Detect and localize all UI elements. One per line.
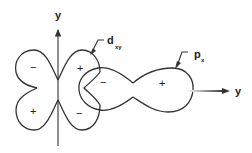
px-label-subscript: x: [201, 57, 205, 63]
vertical-axis-label: y: [55, 9, 62, 21]
px-lobe-left: [79, 68, 133, 111]
dxy-sign-lower-left: +: [30, 105, 36, 117]
horizontal-axis: y: [186, 85, 242, 97]
px-sign-left: −: [100, 76, 106, 88]
px-sign-right: +: [159, 77, 165, 89]
px-lobe-right: [133, 68, 193, 112]
px-label: p: [194, 48, 201, 60]
orbital-overlap-diagram: y − + + − d xy − + p: [0, 0, 252, 153]
dxy-label-subscript: xy: [115, 44, 122, 50]
dxy-lobe-upper-left: [16, 50, 58, 88]
dxy-sign-upper-right: +: [77, 62, 83, 74]
dxy-sign-upper-left: −: [30, 61, 36, 73]
dxy-sign-lower-right: −: [76, 107, 82, 119]
dxy-lobe-lower-left: [16, 88, 58, 130]
horizontal-axis-label: y: [235, 85, 242, 97]
dxy-label: d: [107, 34, 114, 46]
